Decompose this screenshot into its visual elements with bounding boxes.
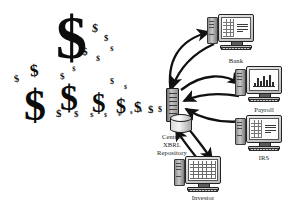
monitor-icon xyxy=(185,156,221,184)
workstation-payroll-label: Payroll xyxy=(244,106,284,113)
monitor-icon xyxy=(246,66,282,94)
dollar-sign-glyph: $ xyxy=(56,6,87,68)
repo-label-line-2: XBRL xyxy=(146,141,198,149)
dollar-sign-glyph: $ xyxy=(29,62,39,80)
dollar-sign-glyph: $ xyxy=(110,46,114,53)
screen-text-pane xyxy=(236,19,250,37)
monitor-icon xyxy=(246,115,282,143)
screen-table-pane xyxy=(223,19,235,37)
dollar-sign-glyph: $ xyxy=(118,112,121,117)
dollar-sign-glyph: $ xyxy=(72,66,76,73)
database-cylinder-icon xyxy=(170,114,192,133)
arrow-bank-to-repo xyxy=(172,44,214,88)
screen-spreadsheet xyxy=(190,161,216,179)
arrow-repo-to-bank xyxy=(170,32,209,93)
computer-tower-icon xyxy=(174,159,185,186)
dollar-sign-glyph: $ xyxy=(104,112,107,118)
dollar-sign-glyph: $ xyxy=(24,84,46,128)
workstation-bank-label: Bank xyxy=(216,57,256,64)
dollar-sign-glyph: $ xyxy=(148,104,154,115)
dollar-sign-glyph: $ xyxy=(104,34,109,43)
dollar-sign-glyph: $ xyxy=(130,110,133,115)
dollar-sign-glyph: $ xyxy=(13,74,19,85)
dollar-sign-glyph: $ xyxy=(91,22,98,34)
dollar-sign-glyph: $ xyxy=(82,46,88,57)
dollar-sign-glyph: $ xyxy=(56,108,62,119)
screen-table-pane xyxy=(251,120,263,138)
computer-tower-icon xyxy=(235,69,246,96)
central-xbrl-repository-label: Central XBRL Repository xyxy=(146,133,198,156)
repo-label-line-1: Central xyxy=(146,133,198,141)
computer-tower-icon xyxy=(207,17,218,44)
dollar-sign-glyph: $ xyxy=(158,106,162,114)
arrow-payroll-to-repo xyxy=(184,94,239,101)
dollar-sign-glyph: $ xyxy=(140,109,142,113)
dollar-sign-glyph: $ xyxy=(124,84,127,90)
computer-tower-icon xyxy=(235,118,246,145)
monitor-icon xyxy=(218,14,254,42)
dollar-sign-glyph: $ xyxy=(74,110,79,119)
workstation-irs-label: IRS xyxy=(244,154,284,161)
dollar-sign-glyph: $ xyxy=(110,78,114,86)
arrow-repo-to-payroll xyxy=(181,76,240,90)
diagram-canvas: $$$$$$$$$$$$$$$$$$$$$$$$$$$ Central XBRL… xyxy=(0,0,298,211)
screen-text-pane xyxy=(264,120,278,138)
dollar-sign-glyph: $ xyxy=(90,112,94,119)
dollar-sign-glyph: $ xyxy=(96,55,101,63)
workstation-investor-label: Investor xyxy=(183,194,223,201)
screen-bar-chart xyxy=(251,71,277,89)
